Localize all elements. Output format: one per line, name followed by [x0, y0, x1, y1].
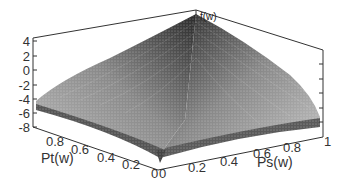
ps-tick-label: 0.4: [220, 154, 238, 169]
surface-mesh: [36, 14, 320, 163]
ps-axis-label: Ps(w): [257, 154, 293, 170]
pt-tick-label: 0.2: [122, 157, 140, 172]
z-tick-label: -2: [18, 78, 30, 93]
pt-tick-label: 0: [151, 166, 158, 181]
ps-tick-label: 0.8: [283, 140, 301, 155]
pt-tick-label: 0.6: [71, 142, 89, 157]
z-tick-label: -4: [18, 92, 30, 107]
z-tick-label: 2: [23, 49, 30, 64]
z-tick-label: -8: [18, 120, 30, 135]
ps-tick-label: 1: [324, 134, 331, 149]
pt-axis-label: Pt(w): [41, 150, 74, 166]
f-axis-label: f(w): [200, 11, 217, 22]
z-axis: 4 2 0 -2 -4 -6 -8: [18, 34, 37, 135]
pt-tick-label: 0.8: [46, 134, 64, 149]
ps-tick-label: 0: [159, 166, 166, 181]
z-tick-label: -6: [18, 106, 30, 121]
ps-tick-label: 0.2: [188, 160, 206, 175]
z-tick-label: 0: [23, 63, 30, 78]
z-tick-label: 4: [23, 34, 30, 49]
pt-tick-label: 0.4: [97, 150, 115, 165]
surface-plot: 4 2 0 -2 -4 -6 -8 0.8 0.6 0.4 0.2 0 Pt(w…: [0, 0, 346, 184]
right-axis-ticks: [319, 64, 323, 122]
